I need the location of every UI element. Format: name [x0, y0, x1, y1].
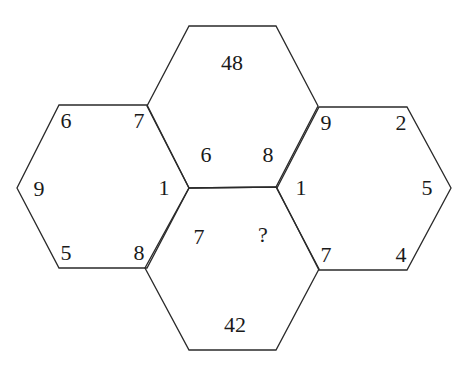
hexagon-diagram: 48 6 8 6 7 9 1 5 8 9 2 1 5 7 4 7 ? 42	[0, 0, 470, 365]
hexagon-puzzle: 48 6 8 6 7 9 1 5 8 9 2 1 5 7 4 7 ? 42	[0, 0, 470, 365]
right-right-number: 5	[422, 175, 433, 200]
left-top-right-number: 7	[134, 108, 145, 133]
top-center-number: 48	[221, 50, 243, 75]
left-right-number: 1	[159, 175, 170, 200]
bottom-unknown-value: ?	[258, 222, 268, 247]
left-top-left-number: 6	[61, 108, 72, 133]
right-top-right-number: 2	[396, 110, 407, 135]
left-bottom-right-number: 8	[134, 240, 145, 265]
right-top-left-number: 9	[321, 110, 332, 135]
right-bottom-right-number: 4	[396, 242, 407, 267]
right-left-number: 1	[296, 175, 307, 200]
bottom-center-number: 42	[224, 312, 246, 337]
left-bottom-left-number: 5	[61, 240, 72, 265]
top-bottom-left-number: 6	[201, 142, 212, 167]
bottom-top-left-number: 7	[194, 224, 205, 249]
top-bottom-right-number: 8	[263, 142, 274, 167]
right-bottom-left-number: 7	[321, 242, 332, 267]
left-left-number: 9	[34, 176, 45, 201]
